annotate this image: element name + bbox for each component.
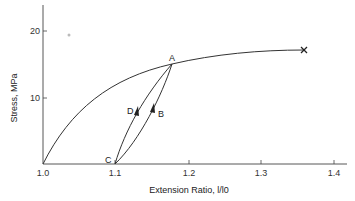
loading-curve xyxy=(43,50,304,164)
y-axis-label: Stress, MPa xyxy=(9,73,19,122)
scan-speck xyxy=(68,34,71,37)
y-tick-20: 20 xyxy=(30,26,40,36)
arrow-b-icon xyxy=(150,103,155,113)
x-tick-1.0: 1.0 xyxy=(37,168,50,178)
x-tick-1.4: 1.4 xyxy=(328,168,341,178)
label-b: B xyxy=(158,109,164,119)
stress-strain-chart: 10 20 1.0 1.1 1.2 1.3 1.4 Extension Rati… xyxy=(0,0,355,201)
label-c: C xyxy=(105,155,112,165)
x-tick-1.3: 1.3 xyxy=(255,168,268,178)
x-tick-1.1: 1.1 xyxy=(109,168,122,178)
y-tick-10: 10 xyxy=(30,93,40,103)
x-tick-1.2: 1.2 xyxy=(183,168,196,178)
x-axis-label: Extension Ratio, l/l0 xyxy=(149,185,229,195)
label-a: A xyxy=(169,53,175,63)
label-d: D xyxy=(127,106,134,116)
arrow-d-icon xyxy=(134,106,139,116)
